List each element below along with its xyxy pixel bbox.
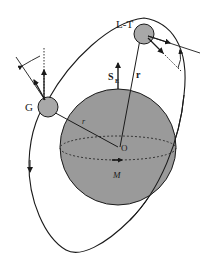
gyro-vectors-LT	[148, 36, 200, 72]
label-spin-S: S	[108, 71, 114, 82]
label-position-r: r	[136, 69, 141, 80]
gyro-vectors-G	[16, 48, 45, 100]
label-center-O: O	[121, 143, 128, 153]
orbit-diagram: L-T G S E r r O M	[0, 0, 213, 269]
label-spin-sub: E	[115, 78, 119, 84]
label-g: G	[25, 101, 33, 113]
label-mass-M: M	[112, 170, 121, 180]
label-lt: L-T	[116, 18, 133, 30]
satellite-G	[38, 97, 58, 117]
